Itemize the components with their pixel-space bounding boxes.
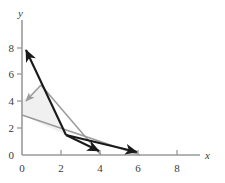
dark-constraint-lower bbox=[66, 135, 137, 152]
y-tick-label-2: 2 bbox=[9, 123, 15, 134]
figure-root: 0 2 4 6 8 0 2 4 6 8 x y bbox=[0, 0, 225, 183]
y-tick-label-0: 0 bbox=[9, 150, 15, 161]
plot-canvas bbox=[0, 0, 225, 183]
x-tick-label-8: 8 bbox=[174, 163, 180, 174]
y-tick-label-4: 4 bbox=[9, 96, 15, 107]
x-axis-label: x bbox=[205, 150, 210, 161]
x-tick-label-2: 2 bbox=[58, 163, 64, 174]
x-tick-label-0: 0 bbox=[19, 163, 25, 174]
x-tick-label-6: 6 bbox=[135, 163, 141, 174]
x-tick-label-4: 4 bbox=[97, 163, 103, 174]
y-tick-label-6: 6 bbox=[9, 69, 15, 80]
dark-constraint-drop bbox=[66, 135, 99, 151]
y-axis-label: y bbox=[18, 8, 23, 19]
y-tick-label-8: 8 bbox=[9, 43, 15, 54]
